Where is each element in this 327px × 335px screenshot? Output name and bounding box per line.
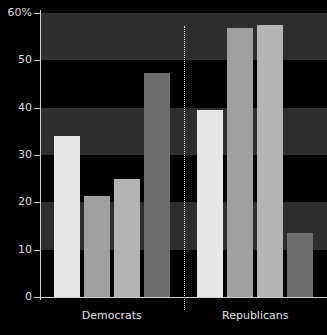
- y-axis-tick-label: 20: [18, 196, 32, 207]
- y-axis-tick-label: 10: [18, 244, 32, 255]
- bar: [257, 25, 283, 297]
- bar-chart: 0102030405060% DemocratsRepublicans: [0, 0, 327, 335]
- y-axis-tick-label: 0: [25, 291, 32, 302]
- bar: [114, 179, 140, 297]
- x-axis-line: [40, 297, 327, 298]
- y-axis-tick-label: 60%: [8, 7, 32, 18]
- y-axis-tick: [34, 202, 40, 203]
- y-axis-tick: [34, 250, 40, 251]
- y-axis-tick: [34, 13, 40, 14]
- y-axis-tick-label: 30: [18, 149, 32, 160]
- y-axis-labels: 0102030405060%: [0, 0, 32, 335]
- bar: [287, 233, 313, 297]
- bar: [227, 28, 253, 297]
- bar: [54, 136, 80, 297]
- y-axis-line: [40, 10, 41, 300]
- y-axis-tick: [34, 60, 40, 61]
- group-divider-line: [184, 26, 185, 310]
- y-axis-tick-label: 40: [18, 102, 32, 113]
- group-label-republicans: Republicans: [222, 310, 288, 322]
- group-label-democrats: Democrats: [82, 310, 142, 322]
- y-axis-tick: [34, 297, 40, 298]
- y-axis-tick: [34, 108, 40, 109]
- y-axis-tick-label: 50: [18, 54, 32, 65]
- bar: [144, 73, 170, 297]
- plot-area: [40, 13, 327, 297]
- bar: [84, 196, 110, 297]
- y-axis-tick: [34, 155, 40, 156]
- bar: [197, 110, 223, 297]
